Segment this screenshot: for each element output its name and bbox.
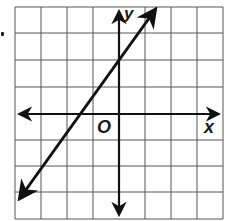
coordinate-graph bbox=[0, 0, 233, 221]
origin-label: O bbox=[97, 117, 111, 138]
graphed-line bbox=[20, 10, 155, 198]
y-axis-label: y bbox=[124, 4, 133, 24]
x-axis-label: x bbox=[204, 117, 214, 138]
